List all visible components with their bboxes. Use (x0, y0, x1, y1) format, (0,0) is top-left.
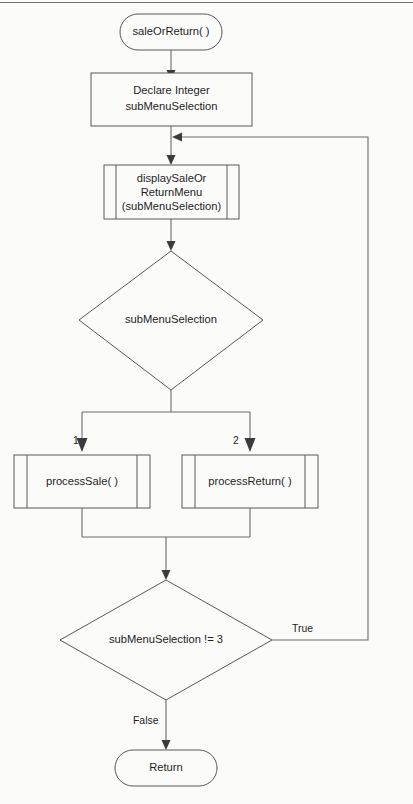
node-loop-decision-label: subMenuSelection != 3 (109, 633, 223, 645)
node-case-decision[interactable]: subMenuSelection (79, 251, 263, 390)
node-end[interactable]: Return (115, 750, 217, 786)
node-end-label: Return (149, 761, 183, 773)
node-display-menu-line1: displaySaleOr (137, 172, 207, 184)
node-case-decision-label: subMenuSelection (125, 313, 217, 325)
edge-label-case-one: 1 (73, 435, 79, 446)
connector-false-to-end (162, 700, 171, 750)
node-process-sale-label: processSale( ) (46, 475, 118, 487)
node-declare[interactable]: Declare Integer subMenuSelection (91, 73, 252, 126)
connector-process-merge (82, 508, 250, 580)
connector-declare-to-display (167, 126, 176, 165)
edge-label-loop-false: False (133, 715, 159, 726)
edge-label-loop-true: True (292, 623, 313, 634)
edge-label-case-two: 2 (233, 435, 239, 446)
node-declare-line1: Declare Integer (133, 84, 210, 96)
node-display-menu-line3: (subMenuSelection) (122, 200, 222, 212)
connector-decision-split (77, 390, 256, 452)
node-declare-line2: subMenuSelection (125, 100, 217, 112)
connector-display-to-decision (167, 219, 176, 251)
node-display-menu[interactable]: displaySaleOr ReturnMenu (subMenuSelecti… (104, 165, 239, 219)
node-process-return[interactable]: processReturn( ) (182, 455, 318, 508)
flowchart-page: saleOrReturn( ) Declare Integer subMenuS… (0, 0, 413, 804)
node-start-label: saleOrReturn( ) (132, 25, 209, 37)
node-loop-decision[interactable]: subMenuSelection != 3 (60, 580, 272, 700)
node-start[interactable]: saleOrReturn( ) (120, 14, 222, 50)
node-process-sale[interactable]: processSale( ) (14, 455, 150, 508)
node-display-menu-line2: ReturnMenu (141, 186, 203, 198)
node-process-return-label: processReturn( ) (208, 475, 292, 487)
flowchart-canvas: saleOrReturn( ) Declare Integer subMenuS… (0, 0, 413, 804)
